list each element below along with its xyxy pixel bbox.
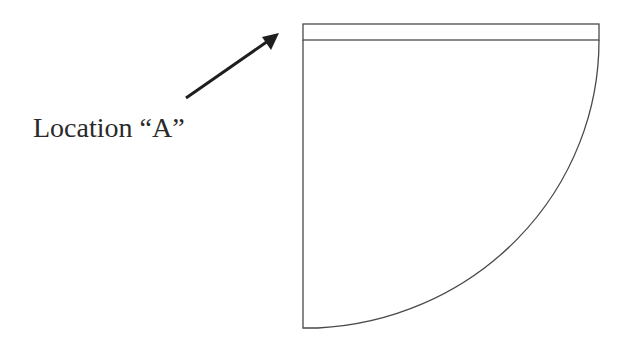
pointer-arrow-shaft [186,41,268,98]
arrow-head-icon [262,33,279,50]
quarter-sector [303,40,599,328]
diagram-canvas: Location “A” [0,0,625,347]
location-a-label: Location “A” [33,112,185,144]
top-band [303,24,599,40]
diagram-svg [0,0,625,347]
